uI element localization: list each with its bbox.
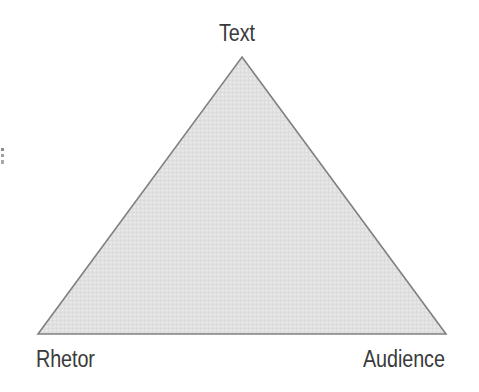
triangle-shape — [38, 57, 446, 334]
rhetorical-triangle-figure: Text Rhetor Audience — [0, 0, 479, 392]
vertex-label-rhetor: Rhetor — [36, 348, 95, 371]
vertex-label-audience: Audience — [363, 348, 445, 371]
page-edge-artifact — [1, 148, 4, 168]
triangle-diagram — [0, 0, 479, 392]
vertex-label-text: Text — [219, 22, 255, 45]
